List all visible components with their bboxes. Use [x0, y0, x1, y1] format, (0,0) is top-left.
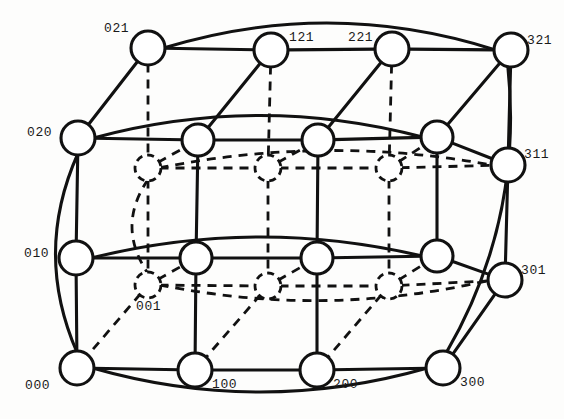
edge-121-120	[207, 62, 261, 129]
edge-001-110-dashed	[158, 265, 183, 279]
edge-020-010	[76, 153, 77, 242]
node-label-300: 300	[460, 376, 485, 389]
edge-110-100	[195, 272, 196, 354]
edge-321-311	[508, 65, 510, 149]
node-111[interactable]	[255, 155, 281, 181]
curved-edge-wrap-row010	[91, 237, 422, 258]
edge-220-210	[317, 154, 318, 243]
edge-221-211-dashed	[389, 64, 391, 156]
node-120[interactable]	[182, 124, 214, 156]
node-300[interactable]	[426, 351, 460, 385]
dashed-edge-group	[87, 64, 492, 359]
node-label-200: 200	[333, 378, 358, 391]
node-220[interactable]	[302, 124, 334, 156]
edge-120-110	[196, 154, 198, 243]
node-021[interactable]	[131, 31, 165, 65]
curved-edge-wrap-right-321-300	[446, 65, 510, 353]
node-321[interactable]	[494, 33, 528, 67]
node-301[interactable]	[488, 263, 522, 297]
edge-321-320	[446, 62, 501, 126]
node-label-100: 100	[212, 378, 237, 391]
edge-011-120-dashed	[158, 147, 185, 162]
curved-edge-wrap-bottom-000	[93, 368, 428, 392]
node-020[interactable]	[61, 121, 95, 155]
edge-101-100-dashed	[205, 295, 260, 359]
node-010[interactable]	[59, 241, 93, 275]
edge-020-120	[93, 138, 183, 140]
edge-201-301-dashed	[400, 281, 489, 286]
node-label-311: 311	[524, 148, 549, 161]
graph-canvas	[0, 0, 564, 419]
torus-network-figure: 021121221321020311010001301000100200300	[0, 0, 564, 419]
edge-311-301	[505, 180, 507, 264]
edge-000-100	[92, 368, 179, 369]
edge-220-320	[332, 137, 422, 139]
node-000[interactable]	[60, 351, 94, 385]
solid-edge-group	[76, 48, 510, 370]
curved-edge-wrap-row020	[93, 115, 422, 137]
node-label-020: 020	[27, 126, 52, 139]
node-label-121: 121	[289, 31, 314, 44]
node-label-000: 000	[25, 379, 50, 392]
node-label-001: 001	[136, 300, 161, 313]
edge-010-000	[76, 273, 77, 352]
curved-edge-wrap-top-021-321	[163, 23, 495, 50]
edge-121-221	[286, 49, 376, 50]
node-320[interactable]	[421, 121, 453, 153]
node-200[interactable]	[300, 353, 334, 387]
edge-211-311-dashed	[400, 165, 492, 167]
node-label-221: 221	[348, 31, 373, 44]
node-label-010: 010	[24, 247, 49, 260]
node-310[interactable]	[421, 240, 453, 272]
node-100[interactable]	[178, 353, 212, 387]
node-201[interactable]	[376, 273, 402, 299]
edge-201-310-dashed	[399, 264, 425, 280]
edge-001-000-dashed	[87, 294, 140, 356]
edge-111-220-dashed	[278, 147, 305, 162]
edge-221-220	[327, 61, 382, 129]
node-311[interactable]	[491, 148, 525, 182]
node-label-321: 321	[527, 34, 552, 47]
node-110[interactable]	[180, 242, 212, 274]
edge-200-300	[332, 368, 427, 370]
edge-210-310	[331, 256, 422, 258]
edge-101-210-dashed	[278, 265, 304, 280]
node-210[interactable]	[301, 242, 333, 274]
node-label-301: 301	[521, 264, 546, 277]
back-node-group	[135, 155, 402, 299]
edge-001-101-dashed	[159, 285, 256, 286]
edge-301-300	[452, 293, 496, 356]
node-101[interactable]	[255, 273, 281, 299]
node-221[interactable]	[375, 32, 409, 66]
node-label-021: 021	[104, 22, 129, 35]
edge-221-321	[407, 49, 495, 50]
edge-121-111-dashed	[268, 65, 270, 156]
edge-021-121	[163, 48, 255, 49]
node-211[interactable]	[376, 155, 402, 181]
node-001[interactable]	[135, 272, 161, 298]
edge-021-020	[88, 60, 139, 126]
edge-320-311	[450, 142, 493, 159]
edge-201-200-dashed	[327, 295, 381, 359]
node-011[interactable]	[135, 155, 161, 181]
node-121[interactable]	[254, 33, 288, 67]
